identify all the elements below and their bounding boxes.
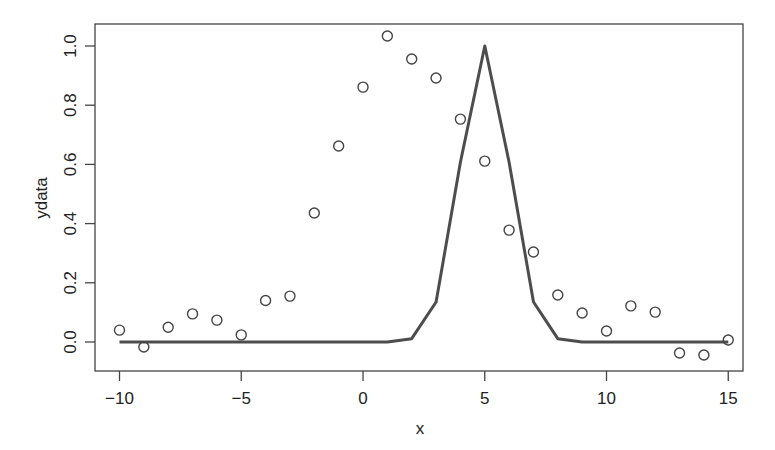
data-point bbox=[261, 296, 271, 306]
data-points bbox=[115, 31, 734, 360]
data-point bbox=[553, 290, 563, 300]
x-tick-label: 15 bbox=[719, 389, 738, 408]
y-tick-label: 0.8 bbox=[61, 93, 80, 117]
data-point bbox=[334, 141, 344, 151]
data-point bbox=[675, 348, 685, 358]
x-tick-label: −10 bbox=[105, 389, 134, 408]
data-point bbox=[236, 330, 246, 340]
x-axis: −10−5051015 bbox=[105, 371, 738, 408]
data-point bbox=[139, 342, 149, 352]
data-point bbox=[626, 301, 636, 311]
data-point bbox=[455, 114, 465, 124]
y-axis-title: ydata bbox=[32, 177, 51, 219]
x-tick-label: 5 bbox=[480, 389, 489, 408]
data-point bbox=[480, 156, 490, 166]
data-point bbox=[577, 308, 587, 318]
data-point bbox=[188, 309, 198, 319]
data-point bbox=[650, 307, 660, 317]
scatter-plot: −10−5051015 0.00.20.40.60.81.0 x ydata bbox=[0, 0, 775, 450]
fit-line bbox=[120, 46, 729, 342]
data-point bbox=[382, 31, 392, 41]
x-axis-title: x bbox=[416, 419, 425, 438]
data-point bbox=[602, 326, 612, 336]
y-tick-label: 1.0 bbox=[61, 34, 80, 58]
data-point bbox=[358, 82, 368, 92]
y-tick-label: 0.4 bbox=[61, 212, 80, 236]
x-tick-label: −5 bbox=[232, 389, 251, 408]
data-point bbox=[163, 322, 173, 332]
y-tick-label: 0.6 bbox=[61, 153, 80, 177]
y-tick-label: 0.0 bbox=[61, 330, 80, 354]
data-point bbox=[285, 291, 295, 301]
data-point bbox=[699, 350, 709, 360]
data-point bbox=[212, 315, 222, 325]
y-tick-label: 0.2 bbox=[61, 271, 80, 295]
y-axis: 0.00.20.40.60.81.0 bbox=[61, 34, 95, 354]
data-point bbox=[504, 225, 514, 235]
data-point bbox=[407, 54, 417, 64]
x-tick-label: 0 bbox=[358, 389, 367, 408]
data-point bbox=[528, 247, 538, 257]
fit-curve bbox=[120, 46, 729, 342]
data-point bbox=[115, 325, 125, 335]
x-tick-label: 10 bbox=[597, 389, 616, 408]
data-point bbox=[309, 208, 319, 218]
data-point bbox=[431, 73, 441, 83]
